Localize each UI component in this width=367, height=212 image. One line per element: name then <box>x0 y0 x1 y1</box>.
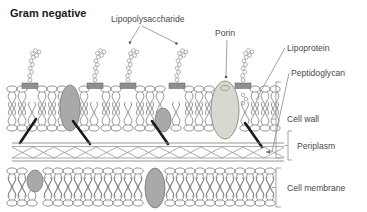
cell-membrane-label: Cell membrane <box>287 183 345 193</box>
peptidoglycan-leader-line <box>266 73 289 152</box>
peptidoglycan-label: Peptidoglycan <box>291 68 345 78</box>
gram-negative-diagram-page: Gram negative <box>0 0 367 212</box>
inner-membrane-protein <box>145 168 165 208</box>
lipoprotein-label: Lipoprotein <box>287 43 330 53</box>
periplasm-bracket <box>285 131 293 160</box>
page-title: Gram negative <box>10 7 86 19</box>
porin-leader-line <box>225 40 228 78</box>
lps-molecule <box>87 49 106 89</box>
cell-membrane-bracket <box>272 168 281 207</box>
porin-label: Porin <box>215 28 235 38</box>
membrane-protein <box>60 85 80 131</box>
lipopolysaccharide-group <box>22 49 254 89</box>
lps-molecule <box>169 49 188 89</box>
periplasm-label: Periplasm <box>297 141 335 151</box>
lps-molecule <box>120 49 139 89</box>
lipoprotein-molecule <box>241 93 248 105</box>
lipoprotein-leader-line <box>256 48 285 100</box>
peptidoglycan-layer <box>12 143 284 161</box>
gram-negative-cell-envelope-diagram: Gram negative <box>0 0 367 212</box>
lipopolysaccharide-label: Lipopolysaccharide <box>111 14 185 24</box>
inner-membrane-protein <box>27 170 43 192</box>
lps-molecule <box>235 49 254 89</box>
cell-wall-label: Cell wall <box>287 114 319 124</box>
porin-protein <box>211 81 239 139</box>
lps-molecule <box>22 49 41 89</box>
lipopolysaccharide-leader-lines <box>129 26 178 45</box>
